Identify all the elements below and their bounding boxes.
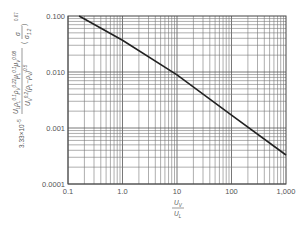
svg-text:σ: σ xyxy=(14,31,21,36)
svg-text:UV: UV xyxy=(174,199,183,208)
y-axis-label: 3.33×10−5 ULρL0.1ρV0.22μL0.1μV0.08 UV0.2… xyxy=(12,12,33,148)
x-tick-label: 1,000 xyxy=(277,187,296,196)
x-tick-label: 100 xyxy=(225,187,238,196)
svg-text:): ) xyxy=(20,24,28,26)
y-tick-label: 0.100 xyxy=(46,12,65,21)
x-tick-label: 1.0 xyxy=(117,187,127,196)
chart-grid xyxy=(68,16,286,184)
y-tick-label: 0.001 xyxy=(46,124,65,133)
x-axis-ticks: 0.11.0101001,000 xyxy=(63,187,296,196)
y-axis-ticks: 0.1000.0100.0010.0001 xyxy=(42,12,65,189)
svg-text:3.33×10−5: 3.33×10−5 xyxy=(17,119,25,148)
svg-text:0.67: 0.67 xyxy=(14,12,19,21)
x-tick-label: 10 xyxy=(173,187,181,196)
svg-text:UL: UL xyxy=(174,210,182,219)
svg-text:UV0.2(ρL−ρV)0.5: UV0.2(ρL−ρV)0.5 xyxy=(23,64,33,106)
svg-text:ULρL0.1ρV0.22μL0.1μV0.08: ULρL0.1ρV0.22μL0.1μV0.08 xyxy=(12,51,21,114)
log-log-chart: 0.1000.0100.0010.0001 0.11.0101001,000 U… xyxy=(0,0,303,232)
y-tick-label: 0.0001 xyxy=(42,180,65,189)
y-tick-label: 0.010 xyxy=(46,68,65,77)
svg-text:σ1.2: σ1.2 xyxy=(23,28,32,39)
svg-text:(: ( xyxy=(20,41,28,44)
x-tick-label: 0.1 xyxy=(63,187,73,196)
x-axis-label: UV UL xyxy=(172,199,184,219)
